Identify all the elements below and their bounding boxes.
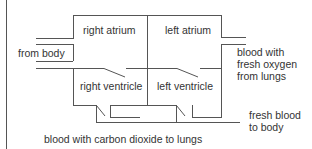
label-from-body: from body bbox=[18, 47, 65, 59]
label-left-ventricle: left ventricle bbox=[157, 80, 213, 92]
tricuspid-valve bbox=[104, 69, 125, 78]
label-right-atrium: right atrium bbox=[83, 24, 136, 36]
label-right-ventricle: right ventricle bbox=[80, 80, 142, 92]
label-to-body-2: to body bbox=[249, 121, 283, 133]
aortic-valve bbox=[177, 106, 186, 117]
label-left-atrium: left atrium bbox=[165, 24, 211, 36]
label-from-lungs-1: blood with bbox=[237, 46, 284, 58]
mitral-valve bbox=[177, 69, 198, 78]
label-from-lungs-2: fresh oxygen bbox=[237, 58, 297, 70]
label-to-body-1: fresh blood bbox=[249, 109, 301, 121]
pulmonary-valve bbox=[97, 106, 106, 117]
label-from-lungs-3: from lungs bbox=[237, 70, 286, 82]
label-to-lungs: blood with carbon dioxide to lungs bbox=[44, 133, 202, 145]
